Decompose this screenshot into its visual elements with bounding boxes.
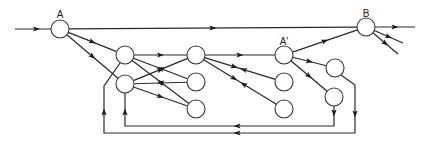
node-m1: [187, 46, 205, 64]
node-a-prime: [275, 46, 293, 64]
nodes-layer: [51, 18, 375, 118]
node-b: [357, 18, 375, 36]
edge-f1-to-l1: [104, 63, 355, 133]
node-label-B: B: [363, 8, 370, 19]
edge-m1-to-r3: [204, 60, 277, 105]
node-r3: [275, 100, 293, 118]
edge-m1-to-r3-arrow-fwd: [230, 74, 237, 80]
node-f2: [325, 88, 343, 106]
node-l1: [116, 46, 134, 64]
node-f1: [326, 59, 344, 77]
node-label-A-prime: A': [280, 36, 289, 47]
node-m2: [187, 73, 205, 91]
network-diagram: A A' B: [0, 0, 427, 151]
arrows-layer: [33, 24, 398, 135]
edge-m1-to-r2: [205, 58, 276, 80]
node-label-A: A: [57, 9, 64, 20]
node-l2: [116, 75, 134, 93]
node-m3: [187, 100, 205, 118]
node-r2: [275, 73, 293, 91]
edge-f2-to-l2: [125, 93, 334, 126]
node-a: [51, 20, 69, 38]
edge-m1-to-r3-arrow-back: [241, 82, 248, 88]
